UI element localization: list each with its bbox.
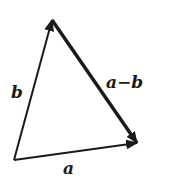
label-a: a: [63, 158, 74, 178]
label-b: b: [11, 82, 23, 102]
vector-diagram: b a a−b: [0, 0, 173, 191]
label-a-minus-b: a−b: [106, 72, 143, 92]
vector-a-arrow: [14, 143, 137, 160]
